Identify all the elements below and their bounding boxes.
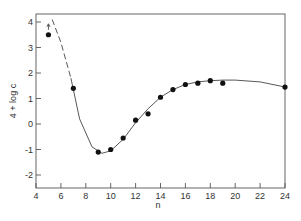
data-point [170, 87, 175, 92]
fitted-curve [52, 20, 285, 154]
data-points [46, 24, 288, 155]
data-point [158, 95, 163, 100]
y-tick-label: 4 [28, 17, 33, 27]
x-tick-label: 20 [230, 191, 240, 201]
data-point [71, 86, 76, 91]
data-point [133, 118, 138, 123]
data-point [145, 111, 150, 116]
x-tick-label: 24 [280, 191, 290, 201]
data-point [183, 82, 188, 87]
x-axis-label: n [155, 200, 160, 210]
data-point [121, 135, 126, 140]
y-tick-label: -2 [25, 170, 33, 180]
y-axis-label: 4 + log c [8, 83, 18, 118]
x-tick-label: 22 [255, 191, 265, 201]
x-axis-ticks: 4681012141618202224 [33, 183, 290, 201]
data-point [195, 81, 200, 86]
y-tick-label: 2 [28, 68, 33, 78]
y-tick-label: 3 [28, 43, 33, 53]
y-tick-label: 0 [28, 119, 33, 129]
data-point [46, 32, 51, 37]
data-point [208, 78, 213, 83]
x-tick-label: 6 [58, 191, 63, 201]
plot-frame [36, 14, 285, 188]
y-tick-label: -1 [25, 145, 33, 155]
data-point [96, 149, 101, 154]
x-tick-label: 12 [131, 191, 141, 201]
data-point [220, 81, 225, 86]
x-tick-label: 4 [33, 191, 38, 201]
y-axis-ticks: -2-101234 [25, 17, 41, 180]
y-tick-label: 1 [28, 94, 33, 104]
data-point [108, 147, 113, 152]
x-tick-label: 18 [205, 191, 215, 201]
x-tick-label: 10 [106, 191, 116, 201]
data-point [282, 84, 287, 89]
x-tick-label: 8 [83, 191, 88, 201]
chart: 4681012141618202224 -2-101234 n 4 + log … [0, 0, 301, 221]
x-tick-label: 16 [180, 191, 190, 201]
